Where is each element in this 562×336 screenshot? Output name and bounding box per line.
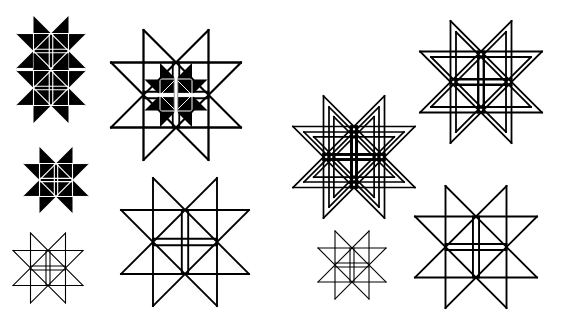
- star-figures: [0, 0, 562, 336]
- triple-nested-star: [293, 96, 415, 218]
- star-pattern-canvas: [0, 0, 562, 336]
- filled-star: [23, 147, 89, 213]
- small-outline-star-left: [13, 233, 83, 303]
- large-outline-star-right: [415, 186, 537, 308]
- double-nested-star: [420, 21, 542, 143]
- large-outline-star-left: [121, 178, 249, 306]
- outline-star-with-filled-core: [111, 30, 241, 160]
- double-filled-star: [16, 16, 86, 123]
- small-outline-star-right: [318, 231, 386, 299]
